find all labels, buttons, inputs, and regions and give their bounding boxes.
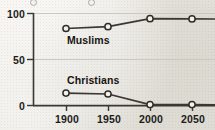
chart-plot	[0, 0, 215, 130]
y-tick-label-0: 0	[0, 100, 25, 112]
data-point-marker	[63, 90, 69, 96]
data-point-marker	[105, 24, 111, 30]
y-tick-label-100: 100	[0, 8, 25, 20]
x-tick-label-1900: 1900	[53, 113, 81, 125]
series-label-muslims: Muslims	[67, 34, 110, 46]
y-tick-label-50: 50	[0, 54, 25, 66]
x-tick-label-2000: 2000	[137, 113, 165, 125]
gridlines	[33, 14, 215, 60]
data-point-marker	[189, 16, 195, 22]
x-axis	[33, 105, 215, 111]
series-label-christians: Christians	[67, 74, 119, 86]
data-point-marker	[63, 25, 69, 31]
series-line-muslims	[63, 16, 215, 32]
data-point-marker	[105, 91, 111, 97]
y-axis	[27, 13, 34, 106]
chart-figure: Muslims Christians	[0, 0, 215, 130]
data-point-marker	[189, 102, 195, 108]
data-point-marker	[147, 16, 153, 22]
x-tick-label-1950: 1950	[95, 113, 123, 125]
x-tick-label-2050: 2050	[179, 113, 207, 125]
data-point-marker	[147, 102, 153, 108]
